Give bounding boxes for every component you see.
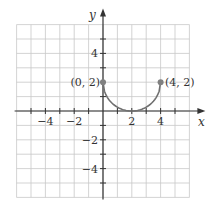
axes (15, 9, 206, 200)
y-tick-label: −4 (82, 163, 98, 176)
x-tick-label: −4 (37, 115, 53, 128)
y-axis-label: y (88, 8, 96, 22)
point-label-right: (4, 2) (165, 76, 195, 89)
point-label-left: (0, 2) (70, 76, 100, 89)
x-tick-labels: −4−224 (37, 115, 164, 128)
x-axis-label: x (198, 115, 205, 129)
x-tick-label: −2 (66, 115, 82, 128)
x-tick-label: 2 (128, 115, 135, 128)
x-tick-label: 4 (157, 115, 164, 128)
y-tick-label: 4 (91, 47, 98, 60)
coordinate-plane: (0, 2) (4, 2) x y −4−224 4−2−4 (0, 0, 217, 206)
point-0-2 (100, 79, 106, 85)
point-4-2 (158, 79, 164, 85)
y-tick-label: −2 (82, 134, 98, 147)
